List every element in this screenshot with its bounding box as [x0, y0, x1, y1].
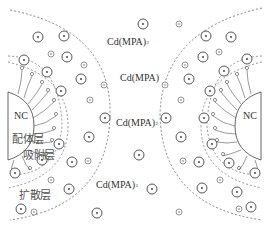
cd-mpa-label-top: Cd(MPA)2 — [107, 37, 149, 47]
diffusion-layer-label: 扩散层 — [19, 190, 51, 201]
cd-mpa-label-mid2: Cd(MPA)2 — [116, 118, 158, 128]
cd-mpa-label-mid1: Cd(MPA) — [120, 73, 159, 83]
adsorption-layer-label: 吸附层 — [23, 150, 55, 161]
nc-label-left: NC — [14, 110, 28, 121]
nc-label-right: NC — [243, 110, 257, 121]
ligand-layer-label: 配体层 — [12, 134, 44, 145]
cd-mpa-label-bottom: Cd(MPA)2 — [96, 180, 138, 190]
